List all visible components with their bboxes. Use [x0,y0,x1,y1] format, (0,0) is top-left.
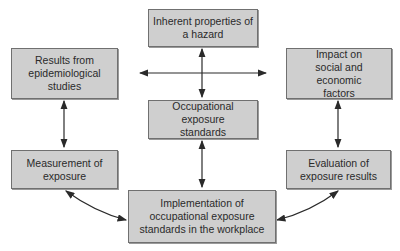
node-implementation-workplace: Implementation of occupational exposure … [128,190,276,243]
node-label: Inherent properties of a hazard [152,15,254,41]
node-label: Evaluation of exposure results [290,157,387,183]
node-social-economic-impact: Impact on social and economic factors [286,48,392,99]
node-label: Implementation of occupational exposure … [132,197,272,236]
node-evaluation-results: Evaluation of exposure results [286,150,391,189]
node-epidemiological-results: Results from epidemiological studies [11,48,118,99]
node-label: Results from epidemiological studies [14,54,114,93]
node-label: Impact on social and economic factors [290,48,388,100]
node-occupational-standards: Occupational exposure standards [148,100,258,139]
node-label: Measurement of exposure [15,157,114,183]
node-label: Occupational exposure standards [152,100,254,139]
evaluation-implementation-arrow [277,191,338,220]
measurement-implementation-arrow [66,191,126,220]
node-inherent-properties: Inherent properties of a hazard [148,9,258,47]
node-measurement-exposure: Measurement of exposure [11,150,118,189]
